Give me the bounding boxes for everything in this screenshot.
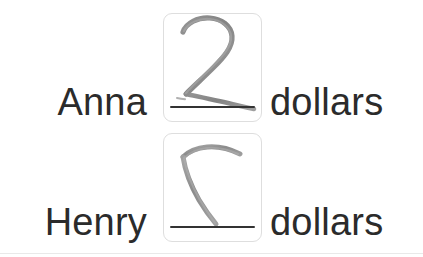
bottom-divider: [0, 253, 423, 254]
unit-label: dollars: [270, 203, 383, 241]
answer-blank-rule: [170, 106, 255, 108]
answer-input-box[interactable]: [163, 13, 262, 122]
student-name-label: Henry: [0, 203, 147, 241]
student-name-label: Anna: [0, 83, 147, 121]
worksheet-row: Anna: [0, 9, 423, 127]
answer-input-box[interactable]: [163, 133, 262, 242]
worksheet-canvas: Anna: [0, 0, 423, 257]
worksheet-row: Henry: [0, 129, 423, 247]
handwritten-stroke-partial: [164, 134, 261, 241]
unit-label: dollars: [270, 83, 383, 121]
handwritten-digit-two: [164, 14, 261, 121]
answer-blank-rule: [170, 226, 255, 228]
